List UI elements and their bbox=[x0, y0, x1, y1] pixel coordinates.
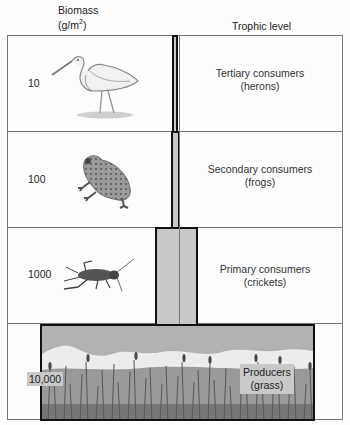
cricket-icon bbox=[58, 255, 138, 295]
biomass-header-line1: Biomass bbox=[58, 4, 98, 16]
biomass-value-tertiary: 10 bbox=[28, 77, 40, 89]
trophic-label-secondary: Secondary consumers (frogs) bbox=[190, 163, 330, 189]
biomass-header-units: (g/m2) bbox=[58, 16, 98, 31]
biomass-value-producers: 10,000 bbox=[27, 372, 63, 386]
column-divider bbox=[179, 35, 180, 324]
frog-icon bbox=[74, 152, 144, 212]
trophic-label-primary: Primary consumers (crickets) bbox=[200, 263, 330, 289]
biomass-value-primary: 1000 bbox=[28, 268, 51, 280]
biomass-bar-primary bbox=[155, 227, 198, 326]
trophic-label-producers: Producers (grass) bbox=[240, 364, 294, 394]
biomass-value-secondary: 100 bbox=[28, 173, 46, 185]
biomass-header: Biomass (g/m2) bbox=[58, 4, 98, 31]
trophic-label-tertiary: Tertiary consumers (herons) bbox=[190, 67, 330, 93]
trophic-level-header: Trophic level bbox=[232, 20, 291, 32]
biomass-bar-tertiary bbox=[172, 35, 178, 133]
heron-icon bbox=[50, 45, 150, 125]
